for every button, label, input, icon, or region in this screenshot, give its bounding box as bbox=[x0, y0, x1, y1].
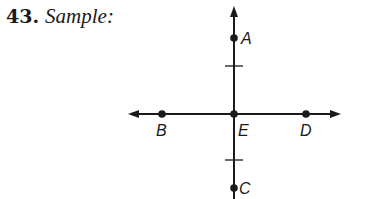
point-label-a: A bbox=[240, 30, 252, 47]
point-e bbox=[230, 110, 238, 118]
arrow-left-icon bbox=[128, 110, 139, 118]
point-label-d: D bbox=[300, 122, 312, 139]
point-b bbox=[158, 110, 166, 118]
point-label-b: B bbox=[156, 122, 167, 139]
arrow-up-icon bbox=[230, 6, 238, 17]
perpendicular-lines-diagram: ABEDC bbox=[0, 0, 389, 199]
point-a bbox=[230, 34, 238, 42]
point-label-c: C bbox=[239, 180, 251, 197]
point-d bbox=[302, 110, 310, 118]
point-c bbox=[230, 184, 238, 192]
point-label-e: E bbox=[238, 122, 249, 139]
arrow-right-icon bbox=[330, 110, 341, 118]
